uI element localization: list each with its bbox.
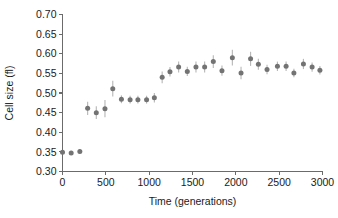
- data-point: [265, 67, 270, 72]
- data-point: [230, 55, 235, 60]
- data-point: [317, 68, 322, 73]
- data-point: [284, 64, 289, 69]
- data-point: [102, 106, 107, 111]
- data-point: [202, 65, 207, 70]
- y-tick-label: 0.30: [36, 165, 57, 177]
- data-point: [193, 65, 198, 70]
- y-tick-label: 0.35: [36, 146, 57, 158]
- data-point: [77, 149, 82, 154]
- y-axis-title: Cell size (fl): [3, 66, 15, 121]
- y-tick-label: 0.45: [36, 106, 57, 118]
- data-point: [94, 110, 99, 115]
- x-tick-label: 500: [97, 176, 115, 188]
- data-point: [110, 86, 115, 91]
- data-point: [69, 151, 74, 156]
- axis-lines: [63, 15, 323, 172]
- chart-figure: 0.300.350.400.450.500.550.600.650.700500…: [0, 0, 338, 218]
- x-tick-label: 2500: [267, 176, 291, 188]
- y-tick-label: 0.55: [36, 67, 57, 79]
- data-point: [128, 97, 133, 102]
- data-point: [176, 65, 181, 70]
- y-tick-label: 0.50: [36, 87, 57, 99]
- data-point: [310, 65, 315, 70]
- y-tick-label: 0.60: [36, 47, 57, 59]
- x-tick-label: 3000: [311, 176, 335, 188]
- data-point: [211, 59, 216, 64]
- data-point: [275, 64, 280, 69]
- data-point: [144, 97, 149, 102]
- y-tick-label: 0.65: [36, 28, 57, 40]
- data-point: [219, 68, 224, 73]
- data-point: [239, 70, 244, 75]
- data-point: [167, 69, 172, 74]
- y-tick-label: 0.40: [36, 126, 57, 138]
- data-point: [85, 106, 90, 111]
- data-point: [291, 70, 296, 75]
- cell-size-scatter-chart: 0.300.350.400.450.500.550.600.650.700500…: [0, 0, 338, 218]
- data-series: [60, 50, 322, 156]
- data-point: [301, 61, 306, 66]
- x-tick-label: 1000: [137, 176, 161, 188]
- x-axis-title: Time (generations): [149, 195, 237, 207]
- data-point: [248, 56, 253, 61]
- data-point: [256, 62, 261, 67]
- data-point: [119, 97, 124, 102]
- x-tick-label: 0: [60, 176, 66, 188]
- data-point: [152, 95, 157, 100]
- x-tick-label: 1500: [181, 176, 205, 188]
- data-point: [60, 150, 65, 155]
- data-point: [135, 97, 140, 102]
- y-tick-label: 0.70: [36, 8, 57, 20]
- data-point: [160, 75, 165, 80]
- data-point: [185, 69, 190, 74]
- x-tick-label: 2000: [224, 176, 248, 188]
